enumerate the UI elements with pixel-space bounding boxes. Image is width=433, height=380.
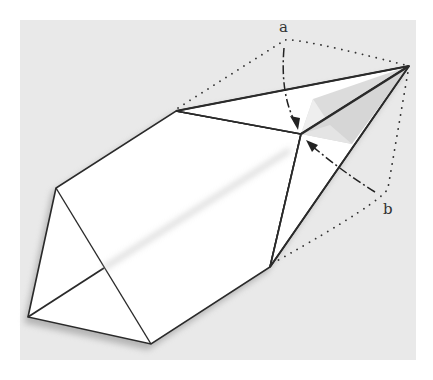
label-b: b: [383, 200, 393, 218]
origami-diagram: a b: [0, 0, 433, 380]
label-a: a: [279, 18, 288, 36]
